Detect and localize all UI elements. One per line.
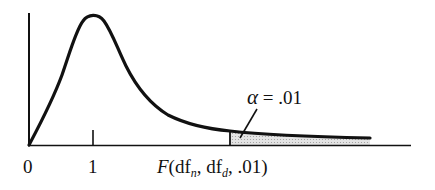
critical-value-close: , .01) bbox=[228, 156, 268, 178]
critical-value-mid: , df bbox=[197, 156, 223, 177]
density-curve bbox=[29, 15, 370, 145]
critical-value-label: F(dfn, dfd, .01) bbox=[156, 156, 268, 180]
f-distribution-chart: α = .01 0 1 F(dfn, dfd, .01) bbox=[0, 0, 435, 190]
alpha-annotation: α = .01 bbox=[247, 85, 302, 109]
x-tick-label-1: 1 bbox=[88, 156, 98, 177]
x-tick-label-0: 0 bbox=[23, 156, 33, 177]
critical-value-open: (df bbox=[169, 156, 192, 178]
alpha-value: = .01 bbox=[258, 87, 302, 108]
critical-value-f: F bbox=[156, 156, 169, 177]
